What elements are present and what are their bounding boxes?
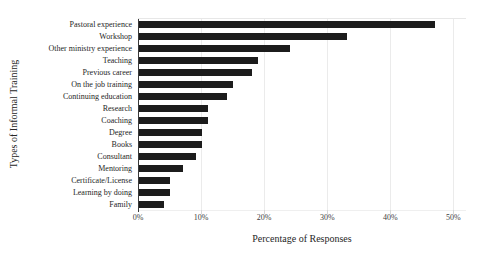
category-label: Workshop bbox=[0, 30, 135, 42]
x-tick-label: 10% bbox=[194, 213, 209, 222]
bar-row bbox=[139, 162, 466, 174]
category-label: Mentoring bbox=[0, 163, 135, 175]
bar-row bbox=[139, 55, 466, 67]
x-tick-label: 0% bbox=[133, 213, 144, 222]
bar-row bbox=[139, 126, 466, 138]
bar-row bbox=[139, 19, 466, 31]
category-labels: Pastoral experienceWorkshopOther ministr… bbox=[0, 18, 135, 211]
category-label: Books bbox=[0, 139, 135, 151]
bar-chart-figure: Types of Informal Training Pastoral expe… bbox=[0, 0, 486, 254]
bar bbox=[139, 165, 183, 172]
bar bbox=[139, 201, 164, 208]
bar bbox=[139, 45, 290, 52]
category-label: Other ministry experience bbox=[0, 42, 135, 54]
x-tick-label: 30% bbox=[320, 213, 335, 222]
bar-row bbox=[139, 103, 466, 115]
bar bbox=[139, 21, 435, 28]
bar-row bbox=[139, 67, 466, 79]
bar bbox=[139, 177, 170, 184]
bar-row bbox=[139, 186, 466, 198]
category-label: Certificate/License bbox=[0, 175, 135, 187]
bar bbox=[139, 105, 208, 112]
bar-row bbox=[139, 115, 466, 127]
plot-area bbox=[138, 18, 466, 211]
bar-row bbox=[139, 31, 466, 43]
bar bbox=[139, 93, 227, 100]
bar-row bbox=[139, 174, 466, 186]
category-label: Family bbox=[0, 199, 135, 211]
category-label: Coaching bbox=[0, 115, 135, 127]
bar bbox=[139, 189, 170, 196]
category-label: Continuing education bbox=[0, 90, 135, 102]
bar-row bbox=[139, 43, 466, 55]
bar-row bbox=[139, 150, 466, 162]
bar bbox=[139, 141, 202, 148]
x-tick-label: 50% bbox=[446, 213, 461, 222]
bar-row bbox=[139, 138, 466, 150]
bar-rows bbox=[139, 19, 466, 210]
category-label: Learning by doing bbox=[0, 187, 135, 199]
category-label: Previous career bbox=[0, 66, 135, 78]
x-tick-label: 40% bbox=[383, 213, 398, 222]
x-axis-title: Percentage of Responses bbox=[138, 233, 466, 244]
bar bbox=[139, 129, 202, 136]
x-tick-label: 20% bbox=[257, 213, 272, 222]
bar bbox=[139, 153, 196, 160]
bar bbox=[139, 69, 252, 76]
bar bbox=[139, 81, 233, 88]
category-label: Research bbox=[0, 102, 135, 114]
bar bbox=[139, 33, 347, 40]
bar-row bbox=[139, 79, 466, 91]
category-label: Degree bbox=[0, 127, 135, 139]
bar bbox=[139, 57, 258, 64]
bar-row bbox=[139, 198, 466, 210]
category-label: On the job training bbox=[0, 78, 135, 90]
category-label: Consultant bbox=[0, 151, 135, 163]
bar-row bbox=[139, 91, 466, 103]
category-label: Teaching bbox=[0, 54, 135, 66]
bar bbox=[139, 117, 208, 124]
x-axis-ticks: 0%10%20%30%40%50% bbox=[138, 213, 466, 224]
category-label: Pastoral experience bbox=[0, 18, 135, 30]
